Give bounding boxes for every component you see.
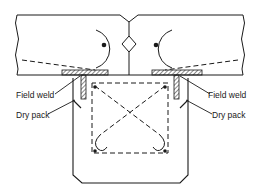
leader-field-weld-left <box>55 76 80 94</box>
right-beam <box>129 15 245 75</box>
leader-dry-pack-right <box>186 100 212 114</box>
left-beam <box>16 15 130 75</box>
label-dry-pack-left: Dry pack <box>16 111 50 120</box>
rebar-corners <box>93 85 167 153</box>
stirrup-hooks <box>95 135 164 151</box>
leader-dry-pack-left <box>48 100 75 114</box>
left-bearing-plate <box>62 70 108 75</box>
label-dry-pack-right: Dry pack <box>212 111 246 120</box>
center-joint <box>122 22 136 75</box>
right-weld-plate <box>174 75 179 99</box>
rebar-dot-right <box>154 43 159 48</box>
label-field-weld-right: Field weld <box>208 91 246 100</box>
bearing-plates <box>62 70 202 99</box>
leader-field-weld-right <box>180 76 210 94</box>
stirrup <box>92 83 168 153</box>
left-weld-plate <box>81 75 86 99</box>
rebar-dot-left <box>102 43 107 48</box>
diamond-symbol <box>122 36 136 52</box>
right-bearing-plate <box>152 70 202 75</box>
column <box>73 78 188 183</box>
label-field-weld-left: Field weld <box>16 91 54 100</box>
